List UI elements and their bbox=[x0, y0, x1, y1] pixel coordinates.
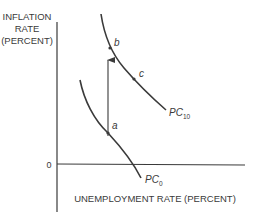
point-a-label: a bbox=[112, 120, 118, 131]
y-axis-title-line-2: RATE bbox=[15, 23, 40, 34]
x-axis bbox=[57, 164, 245, 165]
origin-tick-label: 0 bbox=[46, 160, 51, 170]
phillips-curve-diagram: INFLATION RATE (PERCENT) 0 UNEMPLOYMENT … bbox=[0, 0, 255, 217]
curve-pc0-label-main: PC bbox=[145, 174, 160, 185]
point-a bbox=[106, 131, 109, 134]
curve-pc0 bbox=[80, 80, 141, 178]
y-axis-title-line-3: (PERCENT) bbox=[1, 35, 53, 46]
curve-pc10 bbox=[101, 14, 166, 110]
curve-pc10-label-sub: 10 bbox=[183, 113, 191, 120]
point-b bbox=[108, 46, 111, 49]
x-axis-title: UNEMPLOYMENT RATE (PERCENT) bbox=[74, 193, 236, 204]
curve-pc10-label-main: PC bbox=[169, 107, 184, 118]
point-c-label: c bbox=[139, 68, 144, 79]
curve-pc0-label: PC0 bbox=[145, 174, 163, 187]
curve-pc10-label: PC10 bbox=[169, 107, 191, 120]
curve-pc0-label-sub: 0 bbox=[159, 180, 163, 187]
point-b-label: b bbox=[114, 37, 120, 48]
y-axis-title-line-1: INFLATION bbox=[3, 11, 52, 22]
point-c bbox=[132, 77, 135, 80]
